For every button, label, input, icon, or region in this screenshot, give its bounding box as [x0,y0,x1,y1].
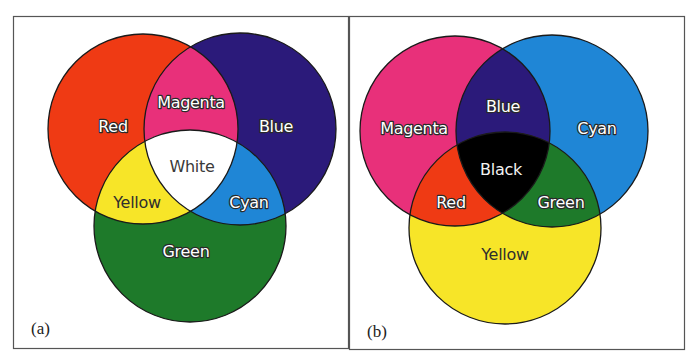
label-green: Green [163,242,210,261]
label-magenta: Magenta [157,93,225,112]
label-black: Black [480,160,523,179]
label-blue: Blue [259,117,293,136]
label-yellow: Yellow [112,193,161,212]
label-cyan: Cyan [229,193,268,212]
panel-b: Magenta Blue Cyan Black Red Green Yellow… [350,17,685,350]
label-white: White [169,157,214,176]
panel-b-label: (b) [367,322,387,341]
label-cyan: Cyan [577,119,616,138]
panel-a: Red Magenta Blue White Yellow Cyan Green… [14,17,349,349]
label-red: Red [98,117,128,136]
label-yellow: Yellow [480,245,529,264]
label-blue: Blue [486,97,520,116]
label-green: Green [538,193,585,212]
color-mixing-diagram: Red Magenta Blue White Yellow Cyan Green… [0,0,698,363]
panel-a-label: (a) [31,319,50,338]
label-magenta: Magenta [380,119,448,138]
label-red: Red [436,193,466,212]
